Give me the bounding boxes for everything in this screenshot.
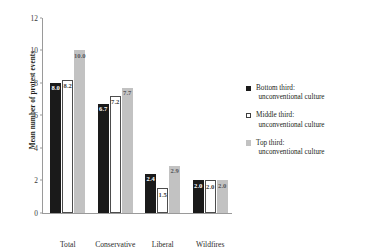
- legend-label-line2: unconventional culture: [256, 121, 370, 130]
- y-tick-label: 12: [31, 14, 38, 23]
- bar-group: 8.08.210.0: [50, 18, 85, 213]
- y-axis-line: [42, 18, 43, 214]
- y-tick-mark: [40, 18, 43, 19]
- legend-item: Middle third:unconventional culture: [246, 111, 370, 129]
- bar-value-label: 2.9: [169, 168, 180, 175]
- legend-label-line1: Top third:: [256, 139, 370, 148]
- bar: 10.0: [74, 50, 85, 212]
- bar: 8.0: [50, 83, 61, 213]
- y-tick-label: 0: [34, 208, 38, 217]
- bar-group: 6.77.27.7: [98, 18, 133, 213]
- legend-label-line2: unconventional culture: [256, 93, 370, 102]
- y-tick-label: 10: [31, 46, 38, 55]
- x-axis-line: [42, 213, 232, 214]
- y-tick-label: 2: [34, 176, 38, 185]
- bar-group: 2.41.52.9: [145, 18, 180, 213]
- y-tick-mark: [40, 82, 43, 83]
- bar-value-label: 8.0: [50, 85, 61, 92]
- x-tick-label: Conservative: [95, 240, 135, 249]
- bar: 2.0: [205, 180, 216, 212]
- bar-value-label: 6.7: [98, 106, 109, 113]
- bar-value-label: 1.5: [158, 192, 167, 199]
- bar: 7.7: [122, 88, 133, 213]
- bar: 7.2: [110, 96, 121, 213]
- bar: 2.9: [169, 166, 180, 213]
- legend-swatch-icon: [246, 86, 251, 91]
- bar-value-label: 2.0: [193, 183, 204, 190]
- y-tick-mark: [40, 115, 43, 116]
- bar: 2.4: [145, 174, 156, 213]
- bar-value-label: 2.4: [145, 176, 156, 183]
- plot-area: 024681012 8.08.210.06.77.27.72.41.52.92.…: [42, 18, 232, 214]
- bar-value-label: 2.0: [206, 184, 215, 191]
- y-tick-label: 8: [34, 78, 38, 87]
- bar-value-label: 10.0: [74, 53, 85, 60]
- chart-legend: Bottom third:unconventional cultureMiddl…: [246, 84, 370, 166]
- x-tick-label: Total: [60, 240, 76, 249]
- bar: 1.5: [157, 188, 168, 212]
- x-tick-label: Liberal: [152, 240, 174, 249]
- y-tick-mark: [40, 180, 43, 181]
- legend-item: Top third:unconventional culture: [246, 139, 370, 157]
- bar-value-label: 8.2: [63, 83, 72, 90]
- legend-label-line2: unconventional culture: [256, 148, 370, 157]
- legend-label-line1: Middle third:: [256, 111, 370, 120]
- bar: 2.0: [217, 180, 228, 212]
- x-tick-label: Wildfires: [196, 240, 224, 249]
- bar-value-label: 7.7: [122, 90, 133, 97]
- bar-group: 2.02.02.0: [193, 18, 228, 213]
- y-tick-label: 4: [34, 143, 38, 152]
- y-axis-title: Mean number of protest events: [29, 15, 37, 185]
- legend-item: Bottom third:unconventional culture: [246, 84, 370, 102]
- bar: 8.2: [62, 80, 73, 213]
- legend-swatch-icon: [246, 140, 251, 145]
- y-tick-mark: [40, 147, 43, 148]
- bar-value-label: 2.0: [217, 183, 228, 190]
- bar-value-label: 7.2: [111, 99, 120, 106]
- y-tick-mark: [40, 50, 43, 51]
- legend-swatch-icon: [246, 113, 251, 118]
- bar-chart: Mean number of protest events 024681012 …: [0, 0, 374, 250]
- bar: 6.7: [98, 104, 109, 213]
- bar: 2.0: [193, 180, 204, 212]
- y-tick-label: 6: [34, 111, 38, 120]
- y-tick-mark: [40, 212, 43, 213]
- legend-label-line1: Bottom third:: [256, 84, 370, 93]
